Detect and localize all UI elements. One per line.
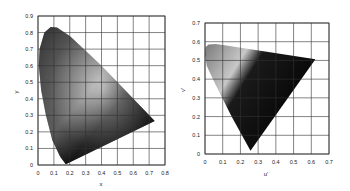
- y-tick-label: 0.8: [25, 30, 33, 36]
- x-axis-label: x: [100, 181, 103, 187]
- plot-area: 00.10.20.30.40.50.60.700.10.20.30.40.50.…: [192, 20, 332, 165]
- x-tick-label: 0.8: [161, 170, 169, 176]
- x-tick-label: 0: [36, 170, 39, 176]
- y-tick-label: 0.2: [25, 129, 33, 135]
- y-axis-label: y: [13, 91, 19, 94]
- x-tick-label: 0.2: [237, 159, 245, 165]
- x-tick-label: 0.4: [98, 170, 106, 176]
- x-tick-label: 0.6: [307, 159, 315, 165]
- y-tick-label: 0.6: [192, 39, 200, 45]
- y-tick-label: 0.1: [25, 145, 33, 151]
- x-tick-label: 0.1: [219, 159, 227, 165]
- x-tick-label: 0.5: [114, 170, 122, 176]
- x-tick-label: 0.5: [290, 159, 298, 165]
- y-tick-label: 0.1: [192, 132, 200, 138]
- y-tick-label: 0.4: [25, 96, 33, 102]
- cie-uv-chart: 00.10.20.30.40.50.60.700.10.20.30.40.50.…: [175, 0, 350, 191]
- y-tick-label: 0.4: [192, 76, 200, 82]
- x-tick-label: 0.3: [254, 159, 262, 165]
- x-tick-label: 0.4: [272, 159, 280, 165]
- y-axis-label: v': [180, 88, 186, 92]
- x-tick-label: 0.1: [50, 170, 58, 176]
- y-tick-label: 0: [197, 151, 200, 157]
- y-tick-label: 0.3: [192, 95, 200, 101]
- y-tick-label: 0.7: [192, 20, 200, 26]
- x-tick-label: 0: [203, 159, 206, 165]
- y-tick-label: 0.6: [25, 63, 33, 69]
- gamut-shading: [39, 27, 155, 164]
- gamut-region: [205, 44, 315, 151]
- y-tick-label: 0.2: [192, 114, 200, 120]
- x-tick-label: 0.7: [325, 159, 333, 165]
- y-tick-label: 0.7: [25, 46, 33, 52]
- plot-area: 00.10.20.30.40.50.60.70.800.10.20.30.40.…: [25, 13, 168, 176]
- x-tick-label: 0.3: [82, 170, 90, 176]
- x-axis-label: u': [264, 171, 268, 177]
- y-tick-label: 0.5: [25, 79, 33, 85]
- x-tick-label: 0.6: [129, 170, 137, 176]
- y-tick-label: 0.9: [25, 13, 33, 19]
- y-tick-label: 0: [30, 162, 33, 168]
- y-tick-label: 0.5: [192, 57, 200, 63]
- x-tick-label: 0.7: [145, 170, 153, 176]
- x-tick-label: 0.2: [66, 170, 74, 176]
- cie-xy-chart: 00.10.20.30.40.50.60.70.800.10.20.30.40.…: [0, 0, 175, 191]
- y-tick-label: 0.3: [25, 112, 33, 118]
